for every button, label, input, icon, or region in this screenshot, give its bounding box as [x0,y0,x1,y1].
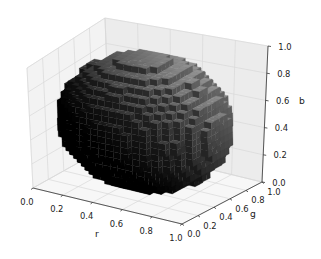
r-tick-label: 1.0 [169,233,182,243]
g-tick [182,224,184,226]
voxel-sphere-figure: 0.00.20.40.60.81.00.00.20.40.60.81.00.00… [0,0,321,259]
b-tick [262,182,265,183]
g-tick-label: 0.2 [203,221,216,231]
r-tick [150,217,152,219]
g-tick-label: 0.0 [187,229,200,239]
b-tick [268,46,271,47]
g-tick-label: 0.6 [235,204,248,214]
b-tick-label: 0.4 [275,123,288,133]
r-tick [91,202,93,204]
g-tick [198,216,200,218]
b-tick-label: 1.0 [278,42,291,52]
g-tick [230,199,232,201]
r-tick-label: 0.2 [50,204,63,214]
g-axis-label: g [250,208,256,219]
r-tick-label: 0.6 [110,219,123,229]
r-tick [31,188,33,190]
r-axis-label: r [95,228,99,239]
b-tick [266,100,269,101]
b-tick-label: 0.8 [277,69,290,79]
b-tick [267,73,270,74]
r-tick-label: 0.4 [80,211,93,221]
b-tick [264,128,267,129]
b-tick-label: 0.2 [274,150,287,160]
b-axis-label: b [299,95,305,106]
g-tick [214,207,216,209]
r-tick [180,224,182,226]
g-tick-label: 1.0 [267,187,280,197]
r-tick [120,210,122,212]
b-tick [263,155,266,156]
b-tick-label: 0.0 [272,178,285,188]
r-tick-label: 0.8 [140,226,153,236]
g-tick [246,190,248,192]
g-tick-label: 0.4 [219,212,232,222]
g-tick-label: 0.8 [251,195,264,205]
r-tick-label: 0.0 [20,197,33,207]
b-tick-label: 0.6 [276,96,289,106]
r-tick [61,195,63,197]
